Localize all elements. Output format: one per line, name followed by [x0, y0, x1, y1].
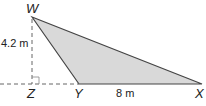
- triangle-wxy: [32, 17, 202, 84]
- vertex-label-z: Z: [26, 86, 36, 101]
- base-measurement: 8 m: [116, 87, 134, 99]
- height-measurement: 4.2 m: [1, 37, 29, 49]
- vertex-label-x: X: [194, 86, 205, 101]
- vertex-label-w: W: [26, 1, 40, 16]
- right-angle-marker: [32, 77, 39, 84]
- vertex-label-y: Y: [74, 86, 84, 101]
- triangle-diagram: W Z Y X 4.2 m 8 m: [0, 0, 206, 106]
